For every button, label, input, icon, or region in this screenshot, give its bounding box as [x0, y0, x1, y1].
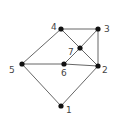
node-3: [95, 26, 100, 31]
node-label-2: 2: [102, 65, 108, 75]
node-1: [58, 103, 63, 108]
node-2: [95, 63, 100, 68]
edge-4-7: [61, 29, 80, 48]
node-label-6: 6: [61, 68, 67, 78]
edge-3-7: [80, 29, 98, 48]
node-5: [19, 61, 24, 66]
edges: [22, 29, 98, 106]
node-7: [77, 45, 82, 50]
edge-7-2: [80, 48, 98, 66]
node-label-5: 5: [9, 65, 15, 75]
edge-5-1: [22, 64, 61, 106]
node-label-1: 1: [66, 105, 72, 115]
labels: 1234567: [9, 22, 110, 115]
edge-6-2: [64, 64, 98, 66]
edge-4-5: [22, 29, 61, 64]
node-label-4: 4: [51, 22, 57, 32]
node-label-7: 7: [68, 47, 74, 57]
node-4: [58, 26, 63, 31]
node-label-3: 3: [104, 24, 110, 34]
node-6: [61, 61, 66, 66]
graph-diagram: 1234567: [0, 0, 118, 120]
